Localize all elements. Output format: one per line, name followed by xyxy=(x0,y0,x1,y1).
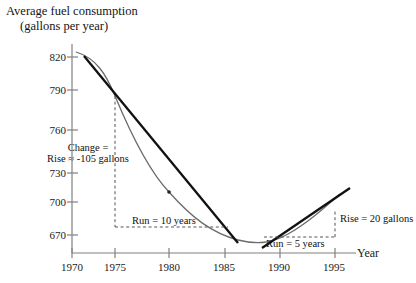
tangent-line-1975 xyxy=(84,56,238,243)
tangent-line-1990 xyxy=(262,188,350,248)
chart-plot-area xyxy=(0,0,416,283)
chart-figure: Average fuel consumption (gallons per ye… xyxy=(0,0,416,283)
fuel-consumption-curve xyxy=(76,52,340,243)
curve-point-marker-1980 xyxy=(167,190,171,194)
